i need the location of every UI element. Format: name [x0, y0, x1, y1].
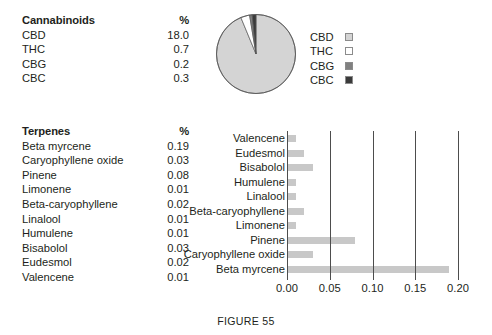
cannabinoid-value: 18.0	[149, 28, 189, 43]
terpene-name: Beta myrcene	[22, 139, 91, 154]
legend-label: CBG	[310, 59, 340, 73]
bar-value	[287, 208, 304, 215]
bar-category-label: Bisabolol	[240, 161, 285, 173]
bar-value	[287, 150, 304, 157]
bar-value	[287, 237, 355, 244]
bar-chart-row: Humulene	[178, 175, 488, 190]
cannabinoid-value: 0.2	[149, 57, 189, 72]
bar-value	[287, 222, 296, 229]
bar-category-label: Humulene	[234, 176, 285, 188]
bar-value	[287, 251, 313, 258]
bar-value	[287, 179, 296, 186]
bar-chart-row: Beta myrcene	[178, 262, 488, 277]
legend-label: CBD	[310, 30, 340, 44]
legend-label: THC	[310, 44, 340, 58]
axis-tick	[373, 276, 374, 280]
bar-category-label: Beta-caryophyllene	[189, 205, 285, 217]
bar-category-label: Linalool	[246, 190, 285, 202]
bar-category-label: Limonene	[236, 219, 285, 231]
axis-tick-label: 0.00	[276, 282, 298, 295]
pie-chart-svg	[215, 13, 297, 95]
axis-tick	[415, 276, 416, 280]
bar-value	[287, 193, 296, 200]
bar-chart-row: Bisabolol	[178, 160, 488, 175]
bar-value	[287, 164, 313, 171]
axis-tick	[330, 276, 331, 280]
cannabinoid-name: THC	[22, 42, 45, 57]
terpene-name: Valencene	[22, 270, 74, 285]
bar-chart-rows: ValenceneEudesmolBisabololHumuleneLinalo…	[178, 131, 488, 276]
bar-chart-row: Linalool	[178, 189, 488, 204]
cannabinoid-name: CBC	[22, 71, 46, 86]
cannabinoid-pie-chart	[215, 13, 297, 95]
terpene-name: Limonene	[22, 182, 71, 197]
bar-chart-row: Beta-caryophyllene	[178, 204, 488, 219]
terpene-name: Caryophyllene oxide	[22, 153, 123, 168]
cannabinoids-header-label: Cannabinoids	[22, 13, 95, 28]
bar-category-label: Pinene	[250, 234, 285, 246]
terpene-name: Linalool	[22, 212, 61, 227]
bar-chart-x-axis: 0.000.050.100.150.20	[287, 276, 458, 302]
terpene-name: Bisabolol	[22, 241, 67, 256]
cannabinoid-value: 0.7	[149, 42, 189, 57]
axis-tick-label: 0.15	[404, 282, 426, 295]
cannabinoid-name: CBD	[22, 28, 46, 43]
terpene-bar-chart: ValenceneEudesmolBisabololHumuleneLinalo…	[178, 131, 488, 306]
legend-swatch-icon	[345, 33, 353, 41]
terpene-name: Eudesmol	[22, 255, 72, 270]
bar-value	[287, 266, 449, 273]
legend-swatch-icon	[345, 47, 353, 55]
bar-chart-row: Pinene	[178, 233, 488, 248]
bar-category-label: Eudesmol	[235, 147, 285, 159]
bar-category-label: Caryophyllene oxide	[184, 248, 285, 260]
axis-tick	[287, 276, 288, 280]
legend-swatch-icon	[345, 62, 353, 70]
bar-chart-row: Limonene	[178, 218, 488, 233]
bar-chart-row: Eudesmol	[178, 146, 488, 161]
axis-tick-label: 0.10	[362, 282, 384, 295]
terpene-name: Beta-caryophyllene	[22, 197, 118, 212]
terpenes-header-label: Terpenes	[22, 124, 70, 139]
cannabinoid-value: 0.3	[149, 71, 189, 86]
terpene-name: Pinene	[22, 168, 57, 183]
bar-category-label: Valencene	[233, 132, 285, 144]
bar-category-label: Beta myrcene	[216, 263, 285, 275]
bar-chart-row: Caryophyllene oxide	[178, 247, 488, 262]
bar-chart-row: Valencene	[178, 131, 488, 146]
legend-label: CBC	[310, 73, 340, 87]
cannabinoid-name: CBG	[22, 57, 46, 72]
axis-tick-label: 0.20	[447, 282, 469, 295]
figure-caption: FIGURE 55	[0, 315, 492, 327]
axis-tick-label: 0.05	[319, 282, 341, 295]
axis-tick	[458, 276, 459, 280]
cannabinoids-header-percent: %	[149, 13, 189, 28]
bar-value	[287, 135, 296, 142]
terpene-name: Humulene	[22, 226, 73, 241]
legend-swatch-icon	[345, 76, 353, 84]
